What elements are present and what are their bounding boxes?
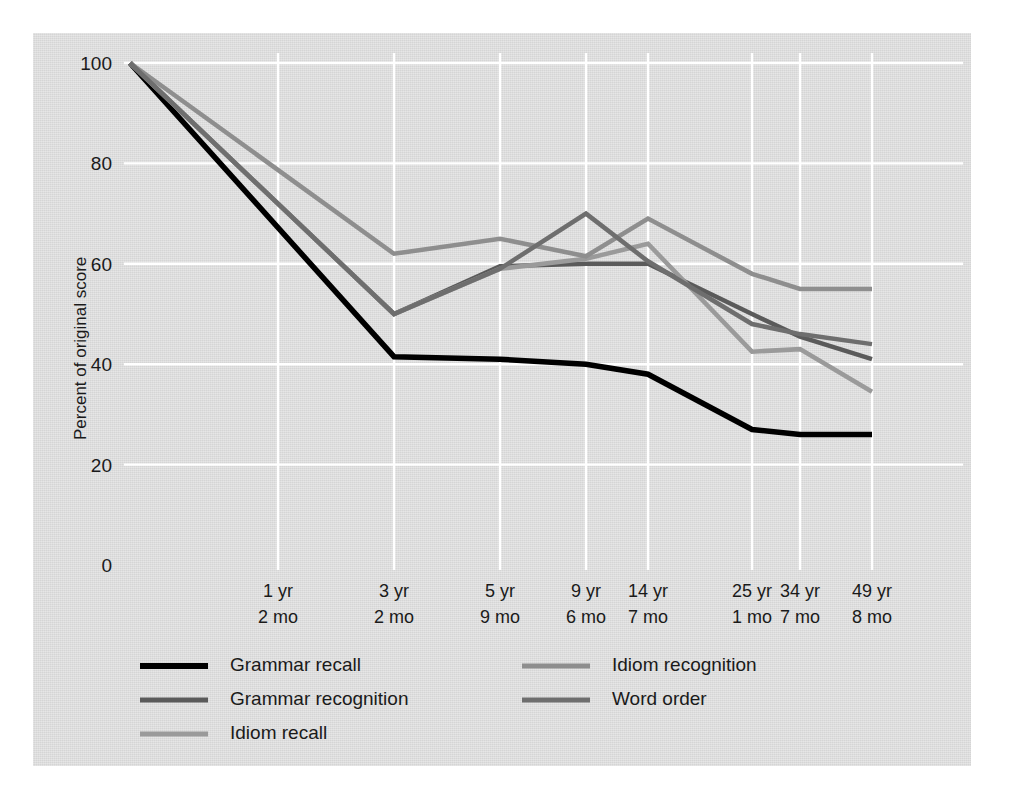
legend-label: Idiom recognition [612, 654, 757, 675]
x-tick-label-years: 49 yr [852, 581, 892, 601]
x-tick-label-months: 2 mo [258, 607, 298, 627]
y-tick-label: 100 [80, 53, 112, 74]
y-tick-label: 0 [101, 555, 112, 576]
x-tick-label-years: 34 yr [780, 581, 820, 601]
vertical-gridlines [278, 53, 872, 570]
legend-label: Word order [612, 688, 707, 709]
x-tick-label-months: 6 mo [566, 607, 606, 627]
x-tick-label-years: 5 yr [485, 581, 515, 601]
x-tick-label-years: 14 yr [628, 581, 668, 601]
legend-item[interactable]: Idiom recognition [522, 654, 757, 675]
x-tick-label-years: 1 yr [263, 581, 293, 601]
y-tick-label: 80 [91, 153, 112, 174]
legend-item[interactable]: Grammar recognition [140, 688, 408, 709]
x-tick-label-years: 9 yr [571, 581, 601, 601]
legend-item[interactable]: Idiom recall [140, 722, 327, 743]
y-axis-title: Percent of original score [71, 257, 90, 440]
x-tick-label-months: 8 mo [852, 607, 892, 627]
y-tick-label: 40 [91, 354, 112, 375]
legend-item[interactable]: Grammar recall [140, 654, 361, 675]
y-tick-label: 20 [91, 455, 112, 476]
x-tick-label-months: 2 mo [374, 607, 414, 627]
x-tick-label-months: 9 mo [480, 607, 520, 627]
y-tick-label: 60 [91, 254, 112, 275]
chart-legend: Grammar recallGrammar recognitionIdiom r… [140, 654, 757, 743]
x-tick-label-months: 1 mo [732, 607, 772, 627]
figure-container: 020406080100 1 yr2 mo3 yr2 mo5 yr9 mo9 y… [0, 0, 1009, 807]
x-tick-label-years: 3 yr [379, 581, 409, 601]
x-tick-label-months: 7 mo [628, 607, 668, 627]
line-chart: 020406080100 1 yr2 mo3 yr2 mo5 yr9 mo9 y… [0, 0, 1009, 807]
x-tick-label-months: 7 mo [780, 607, 820, 627]
x-tick-label-years: 25 yr [732, 581, 772, 601]
x-axis-tick-labels: 1 yr2 mo3 yr2 mo5 yr9 mo9 yr6 mo14 yr7 m… [258, 581, 892, 627]
legend-label: Grammar recognition [230, 688, 408, 709]
legend-item[interactable]: Word order [522, 688, 707, 709]
legend-label: Grammar recall [230, 654, 361, 675]
legend-label: Idiom recall [230, 722, 327, 743]
